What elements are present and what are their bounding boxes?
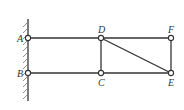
joint-F xyxy=(168,35,173,40)
node-label-F: F xyxy=(167,24,175,35)
truss-members xyxy=(28,38,171,73)
member-DE xyxy=(101,38,171,73)
joint-C xyxy=(98,70,103,75)
joint-A xyxy=(25,35,30,40)
truss-diagram: ABDCFE xyxy=(0,0,184,110)
joint-D xyxy=(98,35,103,40)
node-label-A: A xyxy=(16,33,24,44)
truss-nodes xyxy=(25,35,173,75)
node-labels: ABDCFE xyxy=(16,24,175,88)
node-label-D: D xyxy=(97,24,106,35)
joint-B xyxy=(25,70,30,75)
fixed-wall-support xyxy=(23,19,28,101)
node-label-C: C xyxy=(98,77,105,88)
node-label-E: E xyxy=(167,77,174,88)
joint-E xyxy=(168,70,173,75)
node-label-B: B xyxy=(17,68,23,79)
